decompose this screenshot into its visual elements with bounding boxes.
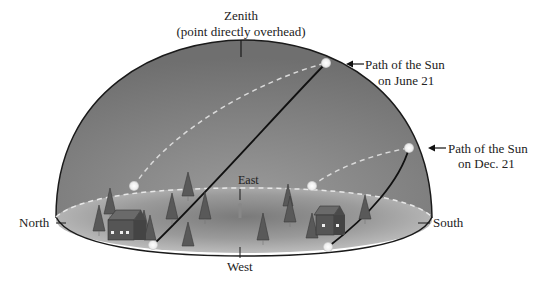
sun-june-set-icon xyxy=(148,240,158,250)
sun-june-noon-icon xyxy=(321,58,331,68)
north-label: North xyxy=(19,215,49,230)
sun-june-rise-icon xyxy=(129,181,139,191)
west-label: West xyxy=(227,259,253,274)
dec-label-line1: Path of the Sun xyxy=(448,141,528,156)
house-icon-left xyxy=(108,210,146,240)
zenith-label: Zenith xyxy=(171,8,311,23)
sun-dec-set-icon xyxy=(323,242,333,252)
arrow-dec-icon xyxy=(428,145,446,152)
zenith-subtitle: (point directly overhead) xyxy=(161,24,321,39)
june-label-line2: on June 21 xyxy=(378,73,434,88)
south-label: South xyxy=(433,215,463,230)
june-label-line1: Path of the Sun xyxy=(365,57,445,72)
person-icon xyxy=(238,203,242,218)
dec-label-line2: on Dec. 21 xyxy=(458,156,515,171)
sun-dec-noon-icon xyxy=(404,143,414,153)
sun-dec-rise-icon xyxy=(307,181,317,191)
house-icon-right xyxy=(314,206,345,235)
east-label: East xyxy=(238,173,259,188)
